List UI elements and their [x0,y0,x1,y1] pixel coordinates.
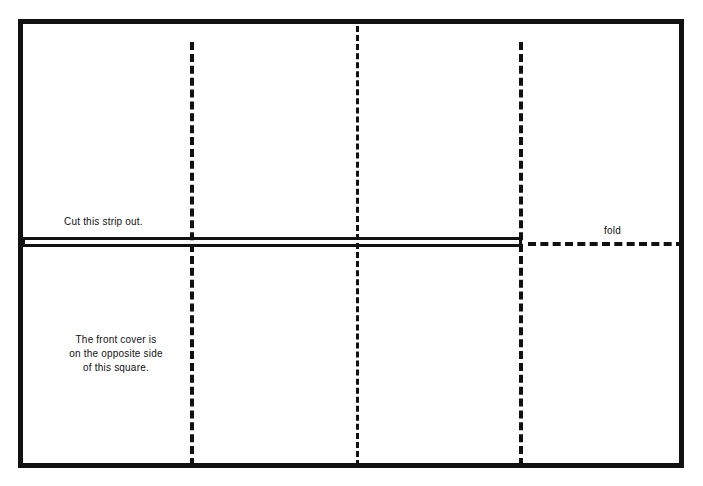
front-cover-note-line-2: on the opposite side [58,347,174,361]
front-cover-note-line-1: The front cover is [58,333,174,347]
cut-strip-right-cap [519,237,522,247]
front-cover-note: The front cover is on the opposite side … [58,333,174,375]
cut-line-bottom [22,244,522,247]
vertical-fold-line-right [519,42,523,466]
fold-label: fold [604,224,621,238]
cut-line-top [22,237,522,240]
diagram-canvas: Cut this strip out. The front cover is o… [0,0,703,486]
cut-strip-left-cap [22,237,25,247]
cut-strip-label: Cut this strip out. [64,215,143,229]
horizontal-fold-line-right [528,242,684,246]
vertical-fold-line-left [190,42,194,466]
front-cover-note-line-3: of this square. [58,361,174,375]
